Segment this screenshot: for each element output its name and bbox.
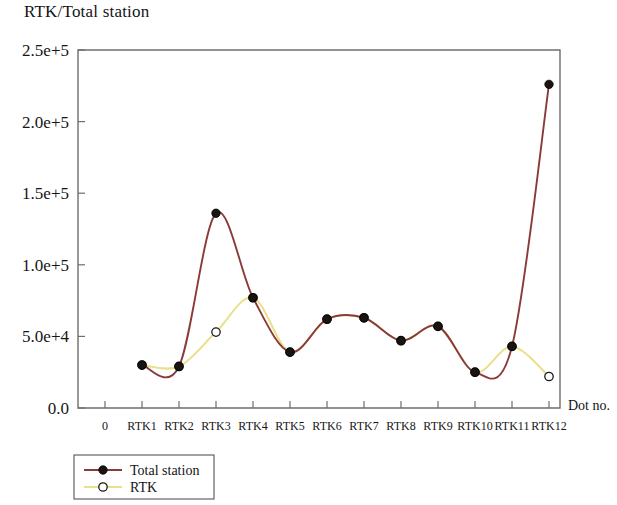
data-point-marker <box>249 294 257 302</box>
x-tick-label: RTK7 <box>349 419 378 433</box>
data-point-marker <box>323 315 331 323</box>
data-point-marker <box>138 361 146 369</box>
y-tick-label: 5.0e+4 <box>22 327 69 346</box>
x-tick-label: RTK3 <box>201 419 230 433</box>
x-tick-label: RTK6 <box>312 419 341 433</box>
x-tick-label: RTK10 <box>457 419 492 433</box>
y-tick-label: 1.5e+5 <box>22 184 69 203</box>
series-markers <box>138 80 553 381</box>
y-tick-label: 0.0 <box>48 399 69 418</box>
chart-legend: Total stationRTK <box>74 455 214 499</box>
data-point-marker <box>545 80 553 88</box>
x-tick-label: RTK5 <box>275 419 304 433</box>
x-tick-label: RTK1 <box>127 419 156 433</box>
data-point-marker <box>175 362 183 370</box>
x-tick-label: 0 <box>102 419 108 433</box>
x-tick-label: RTK8 <box>386 419 415 433</box>
data-point-marker <box>286 348 294 356</box>
series-lines <box>142 84 549 378</box>
data-point-marker <box>471 368 479 376</box>
data-point-marker <box>545 372 553 380</box>
y-axis-ticks <box>78 50 85 408</box>
data-point-marker <box>212 328 220 336</box>
x-tick-label: RTK12 <box>531 419 566 433</box>
plot-frame <box>78 50 560 408</box>
data-point-marker <box>212 209 220 217</box>
legend-entry-label: Total station <box>130 463 199 478</box>
x-axis-tick-labels: 0RTK1RTK2RTK3RTK4RTK5RTK6RTK7RTK8RTK9RTK… <box>102 419 567 433</box>
x-tick-label: RTK11 <box>495 419 530 433</box>
data-point-marker <box>434 322 442 330</box>
data-point-marker <box>360 314 368 322</box>
data-point-marker <box>397 336 405 344</box>
series-line <box>142 297 549 376</box>
chart-plot-area: 0.05.0e+41.0e+51.5e+52.0e+52.5e+5 0RTK1R… <box>0 0 617 505</box>
legend-marker-swatch <box>99 466 107 474</box>
x-axis-ticks <box>105 401 549 408</box>
y-axis-tick-labels: 0.05.0e+41.0e+51.5e+52.0e+52.5e+5 <box>22 41 69 418</box>
legend-entry-label: RTK <box>130 480 157 495</box>
y-tick-label: 2.0e+5 <box>22 113 69 132</box>
chart-container: RTK/Total station Dot no. 0.05.0e+41.0e+… <box>0 0 617 505</box>
y-tick-label: 2.5e+5 <box>22 41 69 60</box>
x-tick-label: RTK4 <box>238 419 267 433</box>
legend-marker-swatch <box>99 483 107 491</box>
series-line <box>142 84 549 378</box>
y-tick-label: 1.0e+5 <box>22 256 69 275</box>
x-tick-label: RTK2 <box>164 419 193 433</box>
x-tick-label: RTK9 <box>423 419 452 433</box>
data-point-marker <box>508 342 516 350</box>
